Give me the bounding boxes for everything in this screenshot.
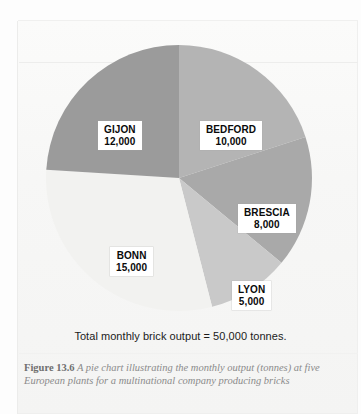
slice-label-lyon: LYON 5,000 — [232, 281, 271, 310]
figure-page: GIJON 12,000 BEDFORD 10,000 BRESCIA 8,00… — [0, 0, 361, 414]
slice-label-brescia-value: 8,000 — [244, 219, 290, 231]
pie-slice-gijon — [46, 45, 179, 178]
slice-label-bedford-value: 10,000 — [206, 136, 256, 148]
pie-chart: GIJON 12,000 BEDFORD 10,000 BRESCIA 8,00… — [20, 24, 340, 324]
slice-label-gijon: GIJON 12,000 — [98, 121, 142, 150]
slice-label-lyon-name: LYON — [238, 284, 265, 296]
figure-caption: Figure 13.6 A pie chart illustrating the… — [24, 361, 328, 387]
slice-label-lyon-value: 5,000 — [238, 296, 265, 308]
slice-label-bonn: BONN 15,000 — [110, 247, 153, 276]
slice-label-bedford-name: BEDFORD — [206, 124, 256, 136]
chart-total-label: Total monthly brick output = 50,000 tonn… — [0, 330, 361, 342]
slice-label-gijon-value: 12,000 — [104, 136, 136, 148]
slice-label-bedford: BEDFORD 10,000 — [200, 121, 262, 150]
slice-label-brescia: BRESCIA 8,000 — [238, 204, 296, 233]
slice-label-bonn-name: BONN — [116, 250, 147, 262]
slice-label-brescia-name: BRESCIA — [244, 207, 290, 219]
pie-chart-svg — [20, 24, 340, 324]
pie-slice-group — [46, 45, 312, 311]
slice-label-bonn-value: 15,000 — [116, 262, 147, 274]
figure-number: Figure 13.6 — [24, 362, 75, 373]
slice-label-gijon-name: GIJON — [104, 124, 136, 136]
scan-ruling-line-bottom — [19, 353, 358, 354]
